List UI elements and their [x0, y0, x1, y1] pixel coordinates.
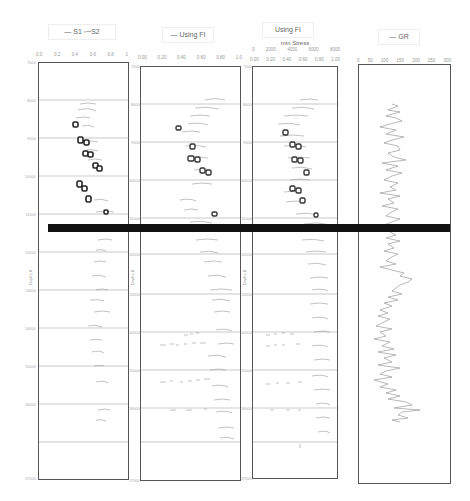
panel-2-markers: [176, 126, 217, 216]
panel-1-scatter: [76, 103, 114, 421]
panel-1-markers: [73, 122, 108, 214]
log-plot-graphics: [0, 0, 470, 501]
depth-marker-bar: [48, 224, 450, 232]
panel-2-scatter: [160, 99, 234, 440]
panel-3-markers: [283, 130, 318, 217]
gr-curve: [374, 104, 420, 422]
panel-3-scatter: [266, 99, 330, 448]
